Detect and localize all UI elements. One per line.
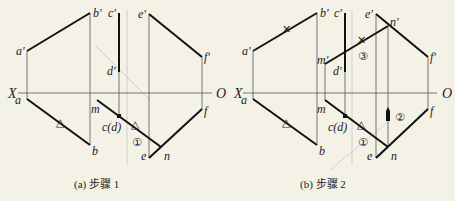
point-cd bbox=[117, 114, 121, 118]
label-b-prime: b' bbox=[93, 6, 102, 20]
label-m: m bbox=[317, 102, 326, 116]
parallel-mark: ✕ bbox=[282, 23, 291, 36]
label-b-prime: b' bbox=[320, 6, 329, 20]
panel-a: △ △ X O a' b' c' d' e' f' a b m c(d) e n… bbox=[7, 6, 226, 191]
label-cd: c(d) bbox=[328, 120, 347, 134]
arrow-icon bbox=[386, 107, 390, 121]
label-m: m bbox=[91, 102, 100, 116]
label-o: O bbox=[216, 86, 226, 101]
label-c-prime: c' bbox=[334, 6, 342, 20]
label-c-prime: c' bbox=[108, 6, 116, 20]
label-f-prime: f' bbox=[430, 50, 436, 64]
step-2-marker: ② bbox=[395, 111, 405, 124]
label-e: e bbox=[141, 149, 147, 163]
label-b: b bbox=[92, 144, 98, 158]
label-a-prime: a' bbox=[242, 44, 251, 58]
label-n-prime: n' bbox=[390, 15, 399, 29]
parallel-mark: △ bbox=[357, 118, 366, 131]
parallel-mark: ✕ bbox=[357, 34, 366, 47]
step-1-marker: ① bbox=[132, 136, 142, 149]
line-a-prime-b-prime bbox=[27, 13, 90, 51]
point-cd bbox=[343, 114, 347, 118]
label-a: a bbox=[241, 93, 247, 107]
projection-diagram: △ △ X O a' b' c' d' e' f' a b m c(d) e n… bbox=[0, 0, 455, 201]
label-o: O bbox=[442, 86, 452, 101]
caption-b: (b) 步骤 2 bbox=[300, 178, 346, 191]
panel-b: ✕ ✕ △ △ X O a' b' c' d' e' n' f' m' a b … bbox=[233, 6, 452, 191]
label-e-prime: e' bbox=[138, 7, 146, 21]
label-n: n bbox=[391, 149, 397, 163]
label-a-prime: a' bbox=[16, 44, 25, 58]
label-f-prime: f' bbox=[204, 50, 210, 64]
label-f: f bbox=[430, 104, 435, 118]
label-d-prime: d' bbox=[107, 64, 116, 78]
parallel-mark: △ bbox=[131, 118, 140, 131]
label-f: f bbox=[204, 104, 209, 118]
label-d-prime: d' bbox=[333, 64, 342, 78]
caption-a: (a) 步骤 1 bbox=[74, 178, 119, 191]
construction-line bbox=[95, 45, 150, 100]
label-b: b bbox=[319, 144, 325, 158]
label-e: e bbox=[367, 149, 373, 163]
label-m-prime: m' bbox=[317, 53, 329, 67]
label-n: n bbox=[164, 149, 170, 163]
label-a: a bbox=[15, 93, 21, 107]
label-e-prime: e' bbox=[365, 7, 373, 21]
line-e-prime-f-prime bbox=[149, 14, 202, 57]
parallel-mark: △ bbox=[56, 116, 65, 129]
step-3-marker: ③ bbox=[358, 50, 368, 63]
parallel-mark: △ bbox=[282, 116, 291, 129]
line-e-f bbox=[149, 109, 202, 158]
line-e-prime-f-prime bbox=[376, 14, 428, 57]
label-cd: c(d) bbox=[102, 120, 121, 134]
step-1-marker: ① bbox=[358, 136, 368, 149]
